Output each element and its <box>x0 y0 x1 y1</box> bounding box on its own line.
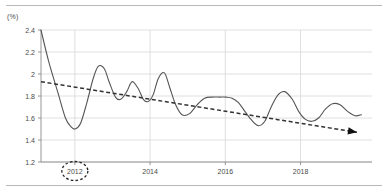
annotations <box>62 127 357 180</box>
x-tick-label: 2016 <box>218 168 234 175</box>
x-axis-tick-labels: 2012201420162018 <box>67 168 308 175</box>
gridlines <box>41 30 372 162</box>
y-tick-label: 1.4 <box>25 137 35 144</box>
y-tick-label: 2.2 <box>25 49 35 56</box>
trend-line-dashed <box>41 82 357 133</box>
line-chart: 2.42.221.81.61.41.2 2012201420162018 <box>0 0 388 193</box>
trend-arrowhead-icon <box>348 127 357 134</box>
y-tick-label: 2 <box>31 71 35 78</box>
y-tick-label: 1.2 <box>25 159 35 166</box>
x-tick-label: 2014 <box>142 168 158 175</box>
series-line-rate <box>41 30 361 129</box>
chart-page: (%) 2.42.221.81.61.41.2 2012201420162018 <box>0 0 388 193</box>
data-series <box>41 30 361 132</box>
y-tick-label: 2.4 <box>25 27 35 34</box>
y-tick-label: 1.8 <box>25 93 35 100</box>
y-axis-tick-labels: 2.42.221.81.61.41.2 <box>25 27 35 166</box>
x-tick-label: 2012 <box>67 168 83 175</box>
y-tick-label: 1.6 <box>25 115 35 122</box>
x-tick-label: 2018 <box>293 168 309 175</box>
